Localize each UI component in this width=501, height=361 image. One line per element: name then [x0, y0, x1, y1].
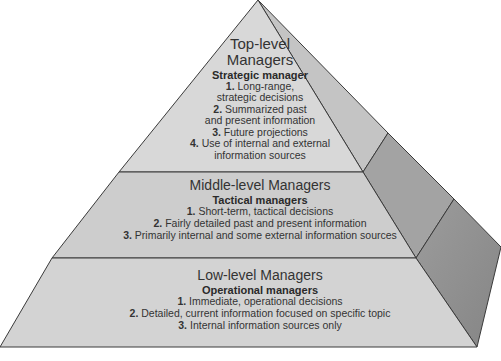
tier-item: information sources [170, 150, 350, 162]
tier-title: Middle-level Managers [120, 178, 400, 193]
tier-title: Managers [170, 52, 350, 68]
tier-middle-level: Middle-level Managers Tactical managers … [120, 178, 400, 241]
tier-item: 3. Primarily internal and some external … [120, 230, 400, 242]
tier-item: 3. Internal information sources only [60, 320, 460, 332]
tier-title: Top-level [170, 36, 350, 52]
tier-low-level: Low-level Managers Operational managers … [60, 268, 460, 331]
tier-title: Low-level Managers [60, 268, 460, 283]
tier-top-level: Top-level Managers Strategic manager 1. … [170, 36, 350, 161]
